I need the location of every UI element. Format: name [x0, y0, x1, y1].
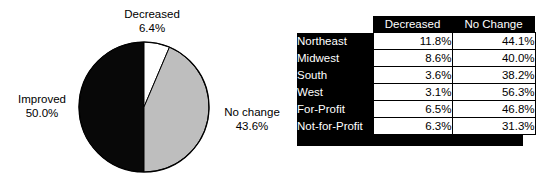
table-header-row: Decreased No Change	[297, 16, 535, 33]
table-header-corner	[297, 16, 373, 33]
table-row-label: For-Profit	[297, 101, 373, 118]
table-row-label: South	[297, 67, 373, 84]
table-row: Northeast 11.8% 44.1%	[297, 33, 535, 50]
table-cell-no-change: 31.3%	[452, 118, 535, 135]
pie-chart	[78, 41, 210, 173]
table-cell-no-change: 38.2%	[452, 67, 535, 84]
pie-chart-panel: Decreased 6.4% Improved 50.0% No change …	[0, 0, 297, 182]
pie-label-improved: Improved 50.0%	[4, 93, 80, 120]
table-cell-no-change: 56.3%	[452, 84, 535, 101]
pie-label-decreased: Decreased 6.4%	[101, 8, 203, 35]
data-table-panel: Decreased No Change Northeast 11.8% 44.1…	[297, 16, 523, 146]
table-header-no-change: No Change	[452, 16, 535, 33]
table-cell-decreased: 8.6%	[373, 50, 452, 67]
pie-label-improved-name: Improved	[4, 93, 80, 107]
table-cell-no-change: 46.8%	[452, 101, 535, 118]
table-header-decreased: Decreased	[373, 16, 452, 33]
table-row: South 3.6% 38.2%	[297, 67, 535, 84]
table-row: West 3.1% 56.3%	[297, 84, 535, 101]
table-cell-decreased: 11.8%	[373, 33, 452, 50]
data-table-body: Northeast 11.8% 44.1% Midwest 8.6% 40.0%…	[297, 33, 535, 135]
pie-label-decreased-value: 6.4%	[101, 22, 203, 36]
data-table-head: Decreased No Change	[297, 16, 535, 33]
pie-slice-improved	[79, 42, 144, 172]
pie-label-no-change: No change 43.6%	[213, 106, 297, 133]
data-table: Decreased No Change Northeast 11.8% 44.1…	[297, 16, 536, 135]
pie-chart-svg	[78, 41, 210, 173]
pie-label-no-change-name: No change	[213, 106, 297, 120]
table-row-label: Midwest	[297, 50, 373, 67]
table-cell-decreased: 3.1%	[373, 84, 452, 101]
table-row: Midwest 8.6% 40.0%	[297, 50, 535, 67]
table-cell-no-change: 44.1%	[452, 33, 535, 50]
table-row-label: Not-for-Profit	[297, 118, 373, 135]
table-cell-decreased: 6.5%	[373, 101, 452, 118]
table-cell-decreased: 6.3%	[373, 118, 452, 135]
table-row-label: Northeast	[297, 33, 373, 50]
pie-label-improved-value: 50.0%	[4, 107, 80, 121]
pie-label-no-change-value: 43.6%	[213, 120, 297, 134]
table-cell-decreased: 3.6%	[373, 67, 452, 84]
table-row: For-Profit 6.5% 46.8%	[297, 101, 535, 118]
pie-label-decreased-name: Decreased	[101, 8, 203, 22]
table-cell-no-change: 40.0%	[452, 50, 535, 67]
table-row: Not-for-Profit 6.3% 31.3%	[297, 118, 535, 135]
table-row-label: West	[297, 84, 373, 101]
